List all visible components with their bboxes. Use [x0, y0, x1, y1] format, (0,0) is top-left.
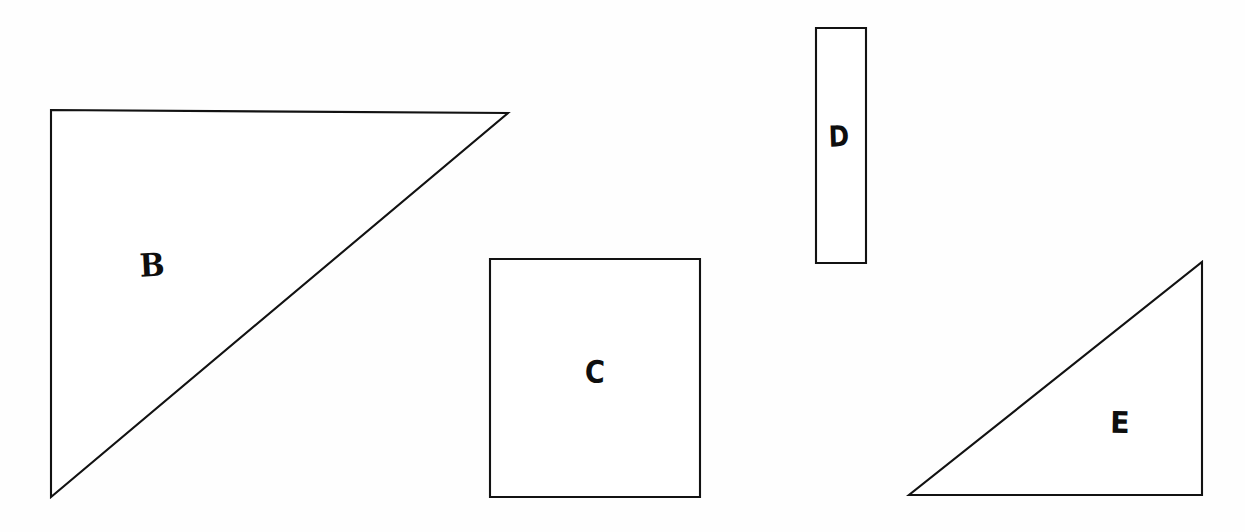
shape-label-b: B — [139, 248, 166, 281]
shape-label-d: D — [828, 122, 849, 152]
shape-e-triangle[interactable] — [909, 262, 1202, 495]
shapes-svg — [0, 0, 1245, 532]
shape-label-e: E — [1110, 408, 1130, 438]
figure-canvas: B C D E — [0, 0, 1245, 532]
shape-b-triangle[interactable] — [51, 110, 508, 497]
shape-label-c: C — [584, 356, 605, 388]
